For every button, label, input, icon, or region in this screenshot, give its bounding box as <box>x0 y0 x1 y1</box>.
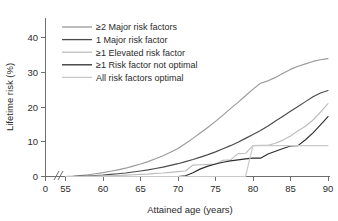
legend-label-2: ≥1 Elevated risk factor <box>96 48 185 58</box>
x-tick-label: 70 <box>173 183 184 194</box>
legend-label-0: ≥2 Major risk factors <box>96 22 177 32</box>
legend-label-4: All risk factors optimal <box>96 73 184 83</box>
legend-label-3: ≥1 Risk factor not optimal <box>96 60 197 70</box>
x-tick-label: 90 <box>323 183 334 194</box>
line-chart: 010203040 05560657075808590 Lifetime ris… <box>0 0 338 221</box>
y-tick-label: 20 <box>27 102 38 113</box>
x-tick-label: 75 <box>210 183 221 194</box>
legend-label-1: 1 Major risk factor <box>96 35 168 45</box>
y-axis-ticks: 010203040 <box>27 32 45 182</box>
x-tick-label: 55 <box>60 183 71 194</box>
series-line-1 <box>66 91 329 177</box>
series-line-2 <box>66 104 329 177</box>
x-tick-label: 65 <box>135 183 146 194</box>
series-line-3 <box>66 117 329 177</box>
x-axis-break-icon <box>54 171 63 180</box>
y-axis-title: Lifetime risk (%) <box>4 63 15 131</box>
y-tick-label: 30 <box>27 67 38 78</box>
x-tick-label: 80 <box>248 183 259 194</box>
y-tick-label: 0 <box>33 171 38 182</box>
x-axis-ticks: 05560657075808590 <box>43 177 333 195</box>
chart-legend: ≥2 Major risk factors1 Major risk factor… <box>62 22 197 82</box>
y-tick-label: 10 <box>27 136 38 147</box>
x-tick-label: 85 <box>285 183 296 194</box>
chart-figure: 010203040 05560657075808590 Lifetime ris… <box>0 0 338 221</box>
x-axis-title: Attained age (years) <box>147 204 233 215</box>
x-tick-label: 60 <box>98 183 109 194</box>
y-tick-label: 40 <box>27 32 38 43</box>
x-tick-label: 0 <box>43 183 48 194</box>
